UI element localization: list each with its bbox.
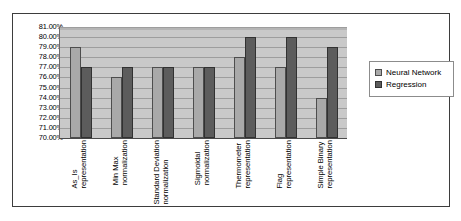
x-tick-label-line: Flag	[275, 174, 284, 189]
x-tick-label-line: Thermometer	[234, 143, 243, 189]
bar[interactable]	[245, 37, 256, 138]
x-axis: As_IsrepresentationMin MaxnormalizationS…	[59, 140, 346, 206]
bar[interactable]	[152, 67, 163, 138]
x-tick-label-line: Min Max	[111, 156, 120, 185]
x-tick-label-line: normalization	[121, 140, 130, 185]
bar[interactable]	[193, 67, 204, 138]
x-tick-label-line: representation	[244, 140, 253, 189]
x-tick: As_Isrepresentation	[59, 140, 100, 206]
x-tick-label-line: Standard Deviation	[152, 140, 161, 205]
x-tick-label: Min Maxnormalization	[112, 140, 129, 185]
x-tick-label: Thermometerrepresentation	[235, 140, 252, 189]
bar-group	[265, 27, 306, 138]
bar-group	[101, 27, 142, 138]
bar[interactable]	[316, 98, 327, 138]
x-tick: Min Maxnormalization	[100, 140, 141, 206]
bar[interactable]	[275, 67, 286, 138]
bar[interactable]	[70, 47, 81, 138]
bar-group	[183, 27, 224, 138]
x-tick-label-line: Simple Binary	[316, 142, 325, 189]
x-tick: Flagrepresentation	[264, 140, 305, 206]
x-tick: Thermometerrepresentation	[223, 140, 264, 206]
y-axis: 70.00%71.00%72.00%73.00%74.00%75.00%76.0…	[16, 27, 63, 138]
x-tick-label-line: representation	[326, 140, 335, 189]
x-tick-label-line: normalization	[203, 140, 212, 185]
bar[interactable]	[111, 77, 122, 138]
chart-frame: 70.00%71.00%72.00%73.00%74.00%75.00%76.0…	[12, 13, 450, 207]
x-tick-label: As_Isrepresentation	[71, 140, 88, 189]
bar[interactable]	[234, 57, 245, 138]
bar-group	[142, 27, 183, 138]
bars-layer	[60, 27, 347, 138]
plot-area	[59, 27, 347, 139]
x-tick-label-line: representation	[80, 140, 89, 189]
x-tick: Simple Binaryrepresentation	[305, 140, 346, 206]
bar[interactable]	[327, 47, 338, 138]
x-tick-label-line: Sigmoidal	[193, 152, 202, 185]
bar[interactable]	[81, 67, 92, 138]
bar[interactable]	[204, 67, 215, 138]
x-tick: Sigmoidalnormalization	[182, 140, 223, 206]
x-tick-label: Flagrepresentation	[276, 140, 293, 189]
bar-group	[224, 27, 265, 138]
x-tick-label: Sigmoidalnormalization	[194, 140, 211, 185]
x-tick-label-line: normalization	[162, 140, 171, 205]
bar[interactable]	[286, 37, 297, 138]
x-tick-label-line: representation	[285, 140, 294, 189]
legend-entry[interactable]: Regression	[375, 80, 449, 89]
legend-swatch-icon	[375, 69, 382, 76]
bar[interactable]	[163, 67, 174, 138]
legend-entry[interactable]: Neural Network	[375, 68, 449, 77]
bar[interactable]	[122, 67, 133, 138]
bar-group	[60, 27, 101, 138]
x-tick-label: Simple Binaryrepresentation	[317, 140, 334, 189]
x-tick: Standard Deviationnormalization	[141, 140, 182, 206]
legend-swatch-icon	[375, 81, 382, 88]
legend-label: Regression	[386, 80, 426, 89]
bar-group	[306, 27, 347, 138]
legend-label: Neural Network	[386, 68, 441, 77]
x-tick-label-line: As_Is	[70, 170, 79, 189]
chart-legend: Neural NetworkRegression	[369, 61, 454, 97]
x-tick-label: Standard Deviationnormalization	[153, 140, 170, 205]
